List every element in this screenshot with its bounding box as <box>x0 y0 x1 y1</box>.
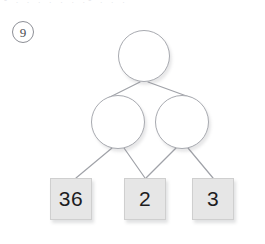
edge-branch-left-to-leaf-2 <box>124 148 145 178</box>
node-branch-right-circle[interactable] <box>155 95 209 149</box>
leaf-box-1[interactable]: 36 <box>50 178 92 220</box>
node-root-circle[interactable] <box>118 30 170 82</box>
edge-branch-left-to-leaf-1 <box>76 148 112 178</box>
edge-branch-right-to-leaf-3 <box>188 148 213 178</box>
node-branch-left-circle[interactable] <box>91 95 145 149</box>
worksheet-canvas: - : : : : : : :- : : : 9 36 2 3 <box>0 0 265 244</box>
leaf-box-3[interactable]: 3 <box>192 178 234 220</box>
leaf-box-2[interactable]: 2 <box>124 178 166 220</box>
edge-branch-right-to-leaf-2 <box>146 148 176 178</box>
